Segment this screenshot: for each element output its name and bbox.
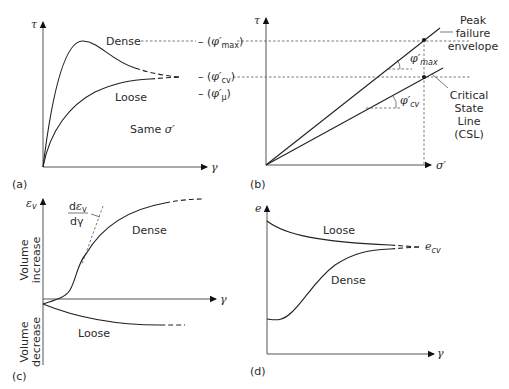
y-axis-label-b: τ xyxy=(254,14,261,27)
y-axis-label-d: e xyxy=(255,202,262,215)
peak-label-3: envelope xyxy=(448,40,499,53)
peak-label-2: failure xyxy=(456,27,491,40)
x-axis-label-c: γ xyxy=(220,293,227,306)
dense-label: Dense xyxy=(106,35,141,48)
loose-label: Loose xyxy=(115,91,147,104)
csl-label-1: Critical xyxy=(450,89,488,102)
dense-curve-dashed xyxy=(135,68,180,77)
dense-curve-d-dashed xyxy=(390,247,422,249)
phi-max-marker: – (φ′max) xyxy=(198,35,243,50)
soil-shear-behaviour-diagram: τ γ Dense Loose Same σ′ – (φ′max) – (φ′c… xyxy=(0,0,509,389)
panel-b: τ σ′ φ′max φ′cv Peak failure envelope Cr… xyxy=(250,14,499,191)
dense-label-d: Dense xyxy=(331,274,366,287)
csl-label-2: State xyxy=(454,102,483,115)
loose-curve-c xyxy=(43,304,160,325)
loose-label-c: Loose xyxy=(78,327,110,340)
panel-b-label: (b) xyxy=(250,178,266,191)
panel-d-label: (d) xyxy=(250,365,266,378)
x-axis-label-d: γ xyxy=(437,347,444,360)
cv-angle-arc xyxy=(393,96,396,108)
critical-state-line xyxy=(266,68,443,165)
panel-a-label: (a) xyxy=(12,178,27,191)
y-axis-label: τ xyxy=(31,18,38,31)
csl-label-4: (CSL) xyxy=(454,128,483,141)
same-sigma-note: Same σ′ xyxy=(130,123,175,136)
slope-denominator: dγ xyxy=(70,215,84,228)
panel-c-label: (c) xyxy=(12,370,27,383)
ecv-label: ecv xyxy=(425,240,441,255)
phi-mu-marker: – (φ′μ) xyxy=(198,87,231,102)
peak-failure-envelope xyxy=(266,28,440,165)
x-axis-label: γ xyxy=(211,161,218,174)
panel-c: εv γ dεv dγ Dense Loose Volume increase … xyxy=(12,197,227,383)
loose-label-d: Loose xyxy=(323,224,355,237)
phi-cv-marker: – (φ′cv) xyxy=(198,70,235,85)
panel-d: e γ Loose Dense ecv (d) xyxy=(250,202,444,378)
slope-leader xyxy=(91,214,100,217)
phi-cv-angle: φ′cv xyxy=(400,94,420,109)
x-axis-label-b: σ′ xyxy=(436,159,447,172)
dense-curve-c-dashed xyxy=(165,199,202,203)
dense-label-c: Dense xyxy=(132,224,167,237)
csl-label-3: Line xyxy=(458,115,481,128)
y-axis-label-c: εv xyxy=(26,197,37,211)
peak-label-1: Peak xyxy=(460,14,487,27)
dense-curve-c xyxy=(43,203,165,304)
csl-leader xyxy=(432,74,448,88)
volume-increase-2: increase xyxy=(30,237,43,284)
dense-curve-d xyxy=(267,249,390,320)
loose-curve-dashed xyxy=(150,77,182,79)
slope-numerator: dεv xyxy=(69,200,87,214)
volume-decrease-2: decrease xyxy=(30,317,43,367)
